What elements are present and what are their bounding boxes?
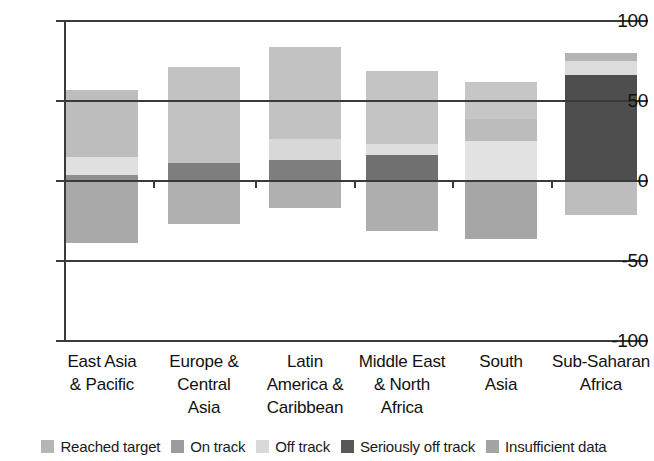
category-label-line: Asia	[443, 373, 559, 396]
category-label-1: East Asia& Pacific	[44, 350, 160, 396]
legend-label: Seriously off track	[360, 439, 475, 454]
y-axis-tick-mark	[56, 260, 65, 262]
y-axis-tick-mark	[56, 340, 65, 342]
category-label-line: & Pacific	[44, 373, 160, 396]
y-axis-tick-label: -100	[596, 331, 648, 350]
legend-swatch-icon	[341, 440, 354, 453]
legend-label: Off track	[275, 439, 330, 454]
y-axis-tick-label: -50	[596, 251, 648, 270]
legend-item-1[interactable]: Reached target	[41, 439, 160, 454]
y-axis-tick-label: 0	[596, 171, 648, 190]
legend-swatch-icon	[486, 440, 499, 453]
category-label-line: South	[443, 350, 559, 373]
y-axis-tick-mark	[56, 20, 65, 22]
y-axis-tick-mark	[56, 100, 65, 102]
legend-item-3[interactable]: Off track	[256, 439, 330, 454]
chart-legend: Reached targetOn trackOff trackSeriously…	[0, 432, 648, 461]
legend-label: Reached target	[60, 439, 160, 454]
legend-label: On track	[190, 439, 245, 454]
legend-swatch-icon	[171, 440, 184, 453]
y-axis-ticks: 100500-50-100	[0, 0, 648, 345]
plot-area: 100500-50-100	[0, 0, 648, 345]
category-label-line: Europe &	[146, 350, 262, 373]
category-label-2: Europe &CentralAsia	[146, 350, 262, 419]
category-label-5: SouthAsia	[443, 350, 559, 396]
legend-item-4[interactable]: Seriously off track	[341, 439, 475, 454]
category-axis-labels: East Asia& PacificEurope &CentralAsiaLat…	[0, 350, 648, 422]
category-label-line: Africa	[344, 396, 460, 419]
y-axis-tick-mark	[56, 180, 65, 182]
category-label-line: Sub-Saharan	[543, 350, 654, 373]
legend-item-5[interactable]: Insufficient data	[486, 439, 606, 454]
category-label-line: East Asia	[44, 350, 160, 373]
legend-label: Insufficient data	[505, 439, 606, 454]
category-label-line: Africa	[543, 373, 654, 396]
category-label-line: Central	[146, 373, 262, 396]
category-label-6: Sub-SaharanAfrica	[543, 350, 654, 396]
legend-item-2[interactable]: On track	[171, 439, 245, 454]
legend-swatch-icon	[41, 440, 54, 453]
category-label-line: Asia	[146, 396, 262, 419]
y-axis-tick-label: 100	[596, 11, 648, 30]
y-axis-tick-label: 50	[596, 91, 648, 110]
legend-swatch-icon	[256, 440, 269, 453]
